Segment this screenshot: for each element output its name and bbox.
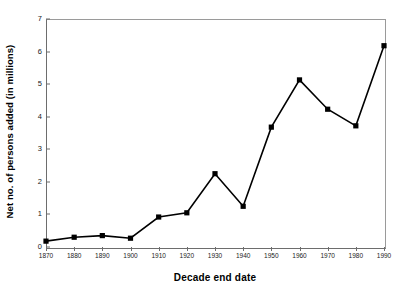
y-axis-tick-label: 2 [26, 178, 42, 186]
y-axis-tick-label: 1 [26, 211, 42, 219]
data-point-marker [128, 236, 133, 241]
x-axis-tick-mark [74, 247, 75, 251]
y-axis-tick-label: 7 [26, 15, 42, 23]
x-axis-title: Decade end date [46, 272, 384, 283]
data-series-layer [46, 19, 384, 247]
y-axis-tick-mark [46, 19, 50, 20]
x-axis-tick-mark [243, 247, 244, 251]
data-point-marker [100, 233, 105, 238]
data-point-marker [353, 123, 358, 128]
y-axis-tick-label: 4 [26, 113, 42, 121]
y-axis-tick-label: 3 [26, 146, 42, 154]
data-point-marker [241, 204, 246, 209]
x-axis-tick-mark [46, 247, 47, 251]
x-axis-tick-label: 1960 [292, 253, 306, 260]
data-point-marker [381, 43, 386, 48]
data-point-marker [184, 210, 189, 215]
x-axis-tick-label: 1950 [264, 253, 278, 260]
x-axis-tick-label-group: 1870188018901900191019201930194019501960… [46, 253, 384, 265]
y-axis-tick-mark [46, 116, 50, 117]
y-axis-tick-label: 5 [26, 80, 42, 88]
x-axis-tick-mark [215, 247, 216, 251]
x-axis-tick-mark [356, 247, 357, 251]
x-axis-tick-label: 1870 [39, 253, 53, 260]
x-axis-tick-mark [300, 247, 301, 251]
data-point-marker [269, 125, 274, 130]
x-axis-tick-label: 1930 [208, 253, 222, 260]
data-point-marker [156, 214, 161, 219]
x-axis-tick-mark [131, 247, 132, 251]
x-axis-tick-mark [159, 247, 160, 251]
series-line-net-persons-added [46, 46, 384, 241]
y-axis-tick-label: 0 [26, 243, 42, 251]
y-axis-tick-mark [46, 84, 50, 85]
x-axis-tick-mark [102, 247, 103, 251]
x-axis-tick-label: 1900 [123, 253, 137, 260]
x-axis-tick-mark [384, 247, 385, 251]
line-chart-figure: Net no. of persons added (in millions) 0… [0, 0, 403, 300]
y-axis-title: Net no. of persons added (in millions) [0, 0, 20, 262]
y-axis-tick-mark [46, 214, 50, 215]
series-marker-group [43, 43, 386, 244]
x-axis-tick-mark [187, 247, 188, 251]
x-axis-tick-label: 1910 [151, 253, 165, 260]
x-axis-tick-label: 1890 [95, 253, 109, 260]
x-axis-tick-label: 1940 [236, 253, 250, 260]
y-axis-title-label: Net no. of persons added (in millions) [5, 44, 16, 218]
x-axis-tick-label: 1880 [67, 253, 81, 260]
data-point-marker [212, 171, 217, 176]
y-axis-tick-mark [46, 51, 50, 52]
y-axis-tick-label: 6 [26, 48, 42, 56]
x-axis-tick-label: 1990 [377, 253, 391, 260]
x-axis-tick-label: 1980 [349, 253, 363, 260]
x-axis-tick-label: 1920 [180, 253, 194, 260]
x-axis-tick-mark [271, 247, 272, 251]
x-axis-tick-label: 1970 [320, 253, 334, 260]
y-axis-tick-label-group: 01234567 [22, 19, 42, 247]
data-point-marker [72, 235, 77, 240]
y-axis-tick-mark [46, 181, 50, 182]
data-point-marker [43, 239, 48, 244]
x-axis-tick-mark [328, 247, 329, 251]
data-point-marker [325, 107, 330, 112]
data-point-marker [297, 77, 302, 82]
y-axis-tick-mark [46, 149, 50, 150]
